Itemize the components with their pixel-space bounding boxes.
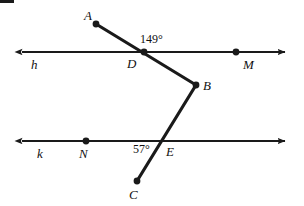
point-label-C: C [129, 188, 138, 201]
line-label-h: h [31, 58, 38, 71]
point-label-E: E [166, 145, 174, 158]
point-label-B: B [203, 79, 211, 92]
point-label-D: D [127, 57, 136, 70]
segment-B-C-through-E [137, 85, 196, 181]
point-label-N: N [79, 147, 88, 160]
point-dot-N [83, 138, 90, 145]
point-dot-C [134, 178, 141, 185]
geometry-figure [0, 0, 304, 206]
point-label-M: M [243, 58, 254, 71]
point-dot-D [141, 49, 148, 56]
angle-label-57: 57° [133, 143, 150, 155]
point-label-A: A [84, 9, 92, 22]
point-dot-B [193, 82, 200, 89]
line-label-k: k [37, 147, 43, 160]
point-dot-A [93, 21, 100, 28]
diagram-canvas: A D M B N E C h k 149° 57° [0, 0, 304, 206]
point-dot-M [233, 49, 240, 56]
angle-label-149: 149° [140, 33, 163, 45]
